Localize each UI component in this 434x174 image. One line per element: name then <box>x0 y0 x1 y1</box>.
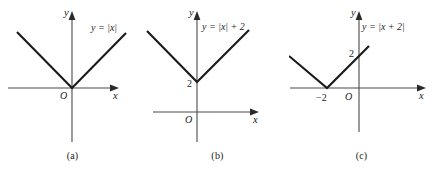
y-axis-label-b: y <box>188 7 194 18</box>
curve-label-c: y = |x + 2| <box>361 21 405 32</box>
y-tick-label-2-b: 2 <box>187 78 192 89</box>
y-axis-label-c: y <box>350 7 356 18</box>
x-axis-label-a: x <box>112 90 118 101</box>
caption-a: (a) <box>0 150 145 161</box>
panel-c: y x O −2 2 y = |x + 2| (c) <box>289 0 434 174</box>
plot-c: y x O −2 2 y = |x + 2| <box>289 0 434 150</box>
y-axis-b <box>194 11 201 142</box>
caption-c: (c) <box>289 150 434 161</box>
y-axis-label-a: y <box>63 7 69 18</box>
curve-label-a: y = |x| <box>90 22 117 33</box>
x-tick-label-minus2-c: −2 <box>316 92 327 103</box>
curve-c <box>289 46 369 88</box>
plot-b: y x O 2 y = |x| + 2 <box>145 0 290 150</box>
panel-a: y x O y = |x| (a) <box>0 0 145 174</box>
origin-label-a: O <box>60 90 67 101</box>
x-axis-c <box>290 84 426 91</box>
absolute-value-graphs-figure: y x O y = |x| (a) <box>0 0 434 174</box>
y-tick-label-2-c: 2 <box>349 48 354 59</box>
x-axis-b <box>153 108 259 115</box>
x-axis-label-c: x <box>418 90 424 101</box>
caption-b: (b) <box>145 150 290 161</box>
plot-a: y x O y = |x| <box>0 0 145 150</box>
curve-b <box>147 30 249 82</box>
origin-label-b: O <box>185 114 192 125</box>
panel-b: y x O 2 y = |x| + 2 (b) <box>145 0 290 174</box>
origin-label-c: O <box>345 91 352 102</box>
y-axis-a <box>69 11 76 142</box>
x-axis-label-b: x <box>252 114 258 125</box>
curve-label-b: y = |x| + 2 <box>201 21 245 32</box>
